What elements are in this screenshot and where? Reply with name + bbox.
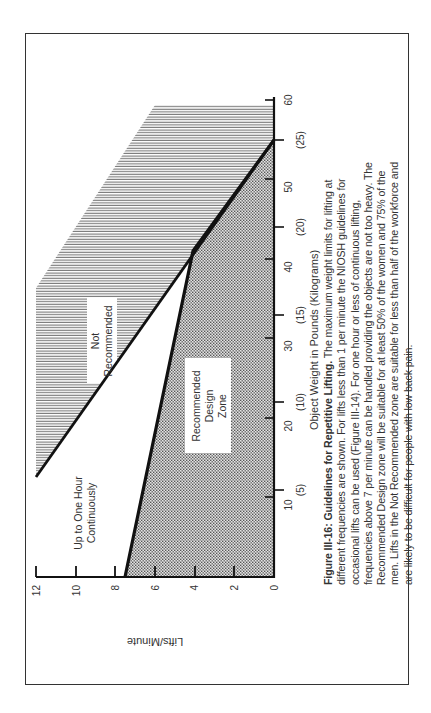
design-zone-label-line1: Recommended bbox=[190, 370, 202, 441]
y-tick-4: 4 bbox=[189, 585, 200, 591]
x-axis-title: Object Weight in Pounds (Kilograms) bbox=[308, 250, 320, 430]
y-tick-12: 12 bbox=[31, 585, 42, 597]
one-hour-label-line1: Up to One Hour bbox=[72, 476, 84, 550]
figure-page: 0 2 4 6 8 10 12 Lifts/Minute 10 bbox=[0, 0, 431, 713]
x-kg-25: (25) bbox=[295, 131, 306, 149]
x-tick-30: 30 bbox=[283, 340, 294, 352]
figure-title: Guidelines for Repetitive Lifting. bbox=[322, 361, 334, 521]
x-tick-40: 40 bbox=[283, 261, 294, 273]
y-tick-labels: 0 2 4 6 8 10 12 bbox=[31, 585, 280, 597]
x-kg-5: (5) bbox=[295, 484, 306, 496]
y-axis-title: Lifts/Minute bbox=[127, 636, 183, 648]
x-tick-50: 50 bbox=[283, 181, 294, 193]
x-kg-20: (20) bbox=[295, 218, 306, 236]
x-tick-labels-lbs: 10 20 30 40 50 60 bbox=[283, 94, 294, 511]
figure-number: Figure III-16: bbox=[322, 523, 334, 585]
one-hour-label: Up to One Hour Continuously bbox=[72, 476, 97, 550]
x-tick-60: 60 bbox=[283, 94, 294, 106]
x-tick-10: 10 bbox=[283, 499, 294, 511]
one-hour-label-line2: Continuously bbox=[85, 482, 97, 543]
y-tick-8: 8 bbox=[110, 585, 121, 591]
x-tick-20: 20 bbox=[283, 420, 294, 432]
y-tick-10: 10 bbox=[71, 585, 82, 597]
figure-caption-body: The maximum weight limits for lifting at… bbox=[322, 162, 414, 585]
x-kg-10: (10) bbox=[295, 393, 306, 411]
x-kg-15: (15) bbox=[295, 306, 306, 324]
design-zone-label-line2: Design bbox=[203, 389, 215, 422]
y-tick-6: 6 bbox=[150, 585, 161, 591]
design-zone-label-line3: Zone bbox=[216, 394, 228, 418]
x-tick-labels-kg: (5) (10) (15) (20) (25) bbox=[295, 131, 306, 496]
not-recommended-label-line1: Not bbox=[89, 333, 101, 349]
y-tick-0: 0 bbox=[269, 585, 280, 591]
not-recommended-label-line2: Recommended bbox=[102, 305, 114, 376]
figure-caption: Figure III-16: Guidelines for Repetitive… bbox=[322, 155, 415, 585]
y-tick-2: 2 bbox=[229, 585, 240, 591]
